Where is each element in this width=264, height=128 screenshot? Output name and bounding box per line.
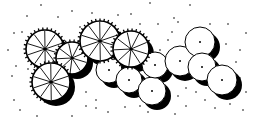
canopy-tooth [117,28,119,29]
stipple-dot [239,49,241,51]
shrub-center-dot [201,66,203,68]
shrub-center-dot [128,79,130,81]
canopy-tooth [51,28,52,30]
canopy-tooth [31,33,33,35]
canopy-tooth [28,36,30,38]
stipple-dot [171,31,173,33]
canopy-tooth [81,28,83,29]
canopy-tooth [54,62,57,63]
shrub-3 [138,77,166,105]
canopy-tooth [30,86,33,87]
stipple-dot [149,2,151,4]
stipple-dot [147,111,149,113]
stipple-dot [214,107,216,109]
stipple-dot [36,115,38,117]
stipple-dot [139,105,141,107]
canopy-tooth [34,30,35,32]
stipple-dot [173,17,175,19]
stipple-dot [95,99,97,101]
stipple-dot [11,75,13,77]
stipple-dot [245,32,247,34]
stipple-dot [13,99,15,101]
trunk-dot [49,80,52,83]
stipple-dot [27,68,29,70]
stipple-dot [130,13,132,15]
canopy-tooth [34,69,36,71]
canopy-tooth [104,61,105,64]
canopy-tooth [104,19,105,22]
landscape-plan-drawing: Plan-view tree grouping sketch [0,0,264,128]
shrub-center-dot [199,41,201,43]
canopy-tooth [44,100,45,102]
stipple-dot [185,87,187,89]
canopy-tooth [143,33,145,35]
stipple-dot [227,23,229,25]
trunk-dot [43,47,46,50]
canopy-tooth [123,30,124,32]
canopy-tooth [123,66,124,68]
trunk-dot [129,47,132,50]
shrub-center-dot [154,64,156,66]
stipple-dot [85,105,87,107]
canopy-tooth [96,61,97,64]
canopy-tooth [96,19,97,22]
trunk-dot [98,39,101,42]
stipple-dot [185,105,187,107]
canopy-tooth [79,32,81,33]
stipple-dot [19,109,21,111]
stipple-dot [117,14,119,16]
canopy-tooth [65,41,66,43]
stipple-dot [85,91,87,93]
canopy-tooth [136,66,137,69]
stipple-dot [245,91,247,93]
canopy-tooth [37,96,39,98]
stipple-dot [229,103,231,105]
canopy-tooth [34,93,36,95]
canopy-tooth [60,36,62,38]
stipple-dot [107,111,109,113]
canopy-tooth [91,20,92,22]
canopy-tooth [57,61,58,63]
shrub-center-dot [108,69,110,71]
stipple-dot [71,10,73,12]
canopy-tooth [136,29,137,32]
canopy-tooth [149,45,152,46]
stipple-dot [209,23,211,25]
canopy-tooth [88,62,91,63]
stipple-dot [91,12,93,14]
stipple-dot [26,15,28,17]
canopy-tooth [84,25,86,27]
canopy-tooth [78,37,81,38]
shrub-center-dot [179,60,181,62]
canopy-tooth [24,45,27,46]
stipple-dot [95,107,97,109]
canopy-tooth [38,28,39,30]
stipple-dot [242,109,244,111]
canopy-tooth [111,42,113,43]
canopy-tooth [79,49,81,50]
canopy-tooth [34,65,35,67]
stipple-dot [79,26,81,28]
shrub-8 [207,65,237,95]
trunk-dot [70,56,73,59]
stipple-dot [235,61,237,63]
tree-plan-svg [0,0,264,128]
canopy-tooth [78,73,79,75]
stipple-dot [204,99,206,101]
canopy-tooth [57,100,58,102]
shrub-6 [185,27,215,57]
canopy-tooth [78,45,81,46]
stipple-dot [157,23,159,25]
canopy-tooth [111,55,113,56]
stipple-dot [139,23,141,25]
canopy-tooth [44,61,45,63]
canopy-tooth [91,59,92,61]
stipple-dot [13,32,15,34]
canopy-tooth [149,53,152,54]
canopy-tooth [24,53,27,54]
stipple-dot [177,95,179,97]
canopy-tooth [30,78,33,79]
canopy-tooth [31,63,33,65]
stipple-dot [71,115,73,117]
canopy-tooth [70,86,73,87]
